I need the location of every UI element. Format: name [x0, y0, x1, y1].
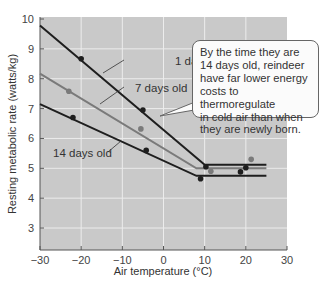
x-tick-label: −30: [31, 254, 50, 266]
data-point: [208, 168, 214, 174]
y-tick-label: 9: [28, 43, 34, 55]
y-tick-label: 4: [28, 192, 34, 204]
data-point: [198, 176, 204, 182]
data-point: [243, 165, 249, 171]
data-point: [143, 148, 149, 154]
x-tick-label: 20: [240, 254, 252, 266]
y-tick-label: 6: [28, 132, 34, 144]
callout-line: they are newly born.: [200, 123, 311, 136]
callout-line: 14 days old, reindeer: [200, 59, 311, 72]
y-tick-label: 3: [28, 222, 34, 234]
y-axis-label: Resting metabolic rate (watts/kg): [6, 54, 18, 214]
series-label-14-days: 14 days old: [53, 147, 112, 159]
data-point: [248, 157, 254, 163]
y-tick-label: 8: [28, 73, 34, 85]
data-point: [140, 107, 146, 113]
x-axis-label: Air temperature (°C): [114, 265, 213, 277]
x-tick-label: 30: [281, 254, 293, 266]
data-point: [138, 126, 144, 132]
series-label-7-days: 7 days old: [135, 82, 187, 94]
y-tick-label: 10: [22, 13, 34, 25]
annotation-callout: By the time they are 14 days old, reinde…: [192, 40, 319, 118]
callout-line: By the time they are: [200, 46, 311, 59]
y-tick-label: 7: [28, 103, 34, 115]
callout-line: in cold air than when: [200, 111, 311, 124]
callout-line: costs to thermoregulate: [200, 85, 311, 111]
data-point: [70, 115, 76, 121]
y-tick-label: 5: [28, 162, 34, 174]
data-point: [238, 169, 244, 175]
data-point: [203, 164, 209, 170]
callout-line: have far lower energy: [200, 72, 311, 85]
data-point: [66, 88, 72, 94]
x-tick-label: −20: [72, 254, 91, 266]
data-point: [78, 56, 84, 62]
